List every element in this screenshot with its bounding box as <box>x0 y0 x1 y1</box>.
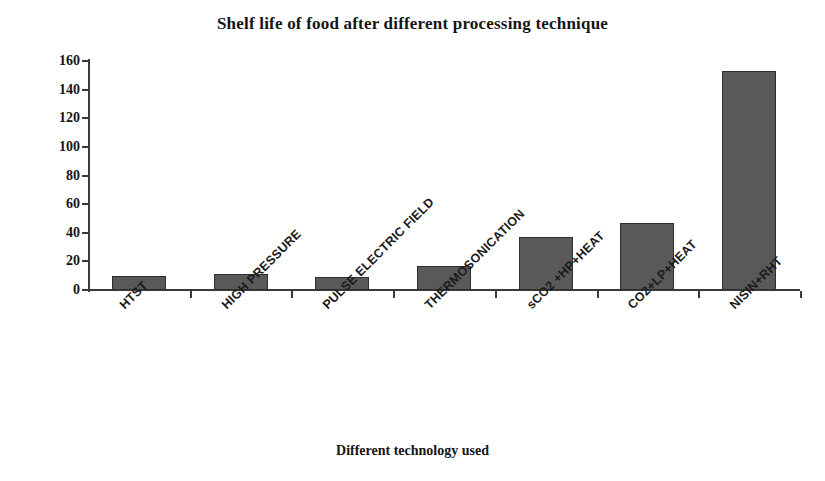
y-tick-label-20: 20 <box>34 254 80 268</box>
y-tick-label-100: 100 <box>34 140 80 154</box>
x-tick-mark-6 <box>698 291 700 298</box>
x-tick-mark-1 <box>190 291 192 298</box>
y-tick-label-40: 40 <box>34 226 80 240</box>
y-tick-label-80: 80 <box>34 169 80 183</box>
bar-nisin-rht <box>722 71 776 290</box>
x-tick-mark-3 <box>393 291 395 298</box>
chart-container: Shelf life of food after different proce… <box>0 0 825 481</box>
y-tick-label-60: 60 <box>34 197 80 211</box>
x-tick-mark-5 <box>597 291 599 298</box>
x-tick-mark-2 <box>291 291 293 298</box>
plot-area <box>88 61 800 290</box>
y-tick-label-140: 140 <box>34 83 80 97</box>
x-axis-title: Different technology used <box>0 443 825 459</box>
y-tick-label-120: 120 <box>34 111 80 125</box>
chart-title: Shelf life of food after different proce… <box>0 14 825 34</box>
y-tick-label-0: 0 <box>34 283 80 297</box>
x-tick-mark-7 <box>800 291 802 298</box>
y-tick-label-160: 160 <box>34 54 80 68</box>
x-tick-mark-4 <box>495 291 497 298</box>
